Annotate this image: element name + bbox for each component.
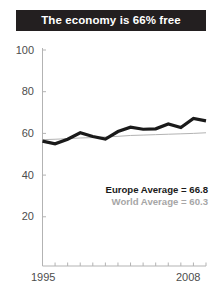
series-layer (43, 118, 207, 143)
y-axis-tick-label: 60 (4, 128, 34, 139)
x-axis-label-end: 2008 (176, 272, 200, 283)
chart-container: The economy is 66% free 10080604020 1995… (0, 0, 218, 303)
x-axis-label-start: 1995 (31, 272, 55, 283)
series-line-europe-average (43, 118, 207, 143)
y-axis-tick-label: 20 (4, 211, 34, 222)
y-axis-tick-label: 80 (4, 86, 34, 97)
legend-europe-average: Europe Average = 66.8 (98, 185, 208, 195)
legend-world-average: World Average = 60.3 (98, 197, 208, 207)
y-axis-tick-label: 40 (4, 170, 34, 181)
axes-layer (43, 48, 207, 266)
y-axis-tick-label: 100 (4, 45, 34, 56)
